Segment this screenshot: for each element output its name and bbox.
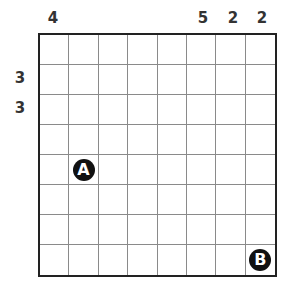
grid-cell-r4-c1[interactable] — [40, 125, 69, 155]
grid-cell-r2-c6[interactable] — [187, 65, 216, 95]
grid-cell-r8-c7[interactable] — [216, 245, 245, 275]
grid-cell-r8-c2[interactable] — [69, 245, 98, 275]
grid-cell-r4-c6[interactable] — [187, 125, 216, 155]
column-clue-7: 2 — [218, 9, 248, 27]
column-clue-8: 2 — [247, 9, 277, 27]
grid-cell-r7-c7[interactable] — [216, 215, 245, 245]
grid-cell-r6-c2[interactable] — [69, 185, 98, 215]
grid-cell-r7-c8[interactable] — [246, 215, 275, 245]
grid-cell-r4-c2[interactable] — [69, 125, 98, 155]
grid-cell-r1-c3[interactable] — [99, 35, 128, 65]
grid-cell-r6-c8[interactable] — [246, 185, 275, 215]
grid-cell-r1-c1[interactable] — [40, 35, 69, 65]
grid-cell-r2-c8[interactable] — [246, 65, 275, 95]
grid-cell-r6-c6[interactable] — [187, 185, 216, 215]
grid-cell-r3-c3[interactable] — [99, 95, 128, 125]
grid-cell-r3-c8[interactable] — [246, 95, 275, 125]
grid-cell-r5-c8[interactable] — [246, 155, 275, 185]
grid-cell-r2-c5[interactable] — [158, 65, 187, 95]
grid-cell-r4-c7[interactable] — [216, 125, 245, 155]
grid-cell-r1-c5[interactable] — [158, 35, 187, 65]
marker-b: B — [249, 249, 271, 271]
grid-cell-r7-c3[interactable] — [99, 215, 128, 245]
row-clue-3: 3 — [12, 99, 28, 117]
grid-cell-r3-c5[interactable] — [158, 95, 187, 125]
grid-cell-r3-c1[interactable] — [40, 95, 69, 125]
grid-cell-r6-c1[interactable] — [40, 185, 69, 215]
grid-cell-r3-c6[interactable] — [187, 95, 216, 125]
grid-cell-r6-c5[interactable] — [158, 185, 187, 215]
grid-cell-r7-c5[interactable] — [158, 215, 187, 245]
grid-cell-r7-c1[interactable] — [40, 215, 69, 245]
grid-cell-r8-c4[interactable] — [128, 245, 157, 275]
grid-cell-r4-c8[interactable] — [246, 125, 275, 155]
grid-cell-r2-c7[interactable] — [216, 65, 245, 95]
grid-cell-r6-c3[interactable] — [99, 185, 128, 215]
grid-cell-r7-c4[interactable] — [128, 215, 157, 245]
grid-cell-r8-c5[interactable] — [158, 245, 187, 275]
grid-cell-r5-c3[interactable] — [99, 155, 128, 185]
grid-cell-r4-c3[interactable] — [99, 125, 128, 155]
grid-cell-r5-c2[interactable]: A — [69, 155, 98, 185]
grid-cell-r8-c8[interactable]: B — [246, 245, 275, 275]
row-clue-2: 3 — [12, 69, 28, 87]
grid-cell-r5-c4[interactable] — [128, 155, 157, 185]
grid-cell-r5-c6[interactable] — [187, 155, 216, 185]
column-clue-1: 4 — [38, 9, 68, 27]
grid-cell-r1-c4[interactable] — [128, 35, 157, 65]
grid-cell-r2-c1[interactable] — [40, 65, 69, 95]
grid-cell-r4-c4[interactable] — [128, 125, 157, 155]
grid-cell-r1-c6[interactable] — [187, 35, 216, 65]
marker-a: A — [73, 159, 95, 181]
grid-cell-r5-c1[interactable] — [40, 155, 69, 185]
grid-cell-r3-c4[interactable] — [128, 95, 157, 125]
grid-cell-r2-c4[interactable] — [128, 65, 157, 95]
grid-cell-r6-c4[interactable] — [128, 185, 157, 215]
grid-cell-r5-c5[interactable] — [158, 155, 187, 185]
grid-cell-r6-c7[interactable] — [216, 185, 245, 215]
grid-cell-r4-c5[interactable] — [158, 125, 187, 155]
puzzle-grid: AB — [38, 33, 277, 277]
grid-cell-r8-c6[interactable] — [187, 245, 216, 275]
grid-cell-r3-c2[interactable] — [69, 95, 98, 125]
grid-cell-r3-c7[interactable] — [216, 95, 245, 125]
column-clue-6: 5 — [188, 9, 218, 27]
grid-cell-r1-c7[interactable] — [216, 35, 245, 65]
grid-cell-r1-c2[interactable] — [69, 35, 98, 65]
grid-cell-r8-c1[interactable] — [40, 245, 69, 275]
grid-cell-r2-c2[interactable] — [69, 65, 98, 95]
grid-cell-r7-c6[interactable] — [187, 215, 216, 245]
grid-cell-r5-c7[interactable] — [216, 155, 245, 185]
grid-cell-r7-c2[interactable] — [69, 215, 98, 245]
puzzle-board: 4 5 2 2 3 3 AB — [0, 0, 297, 293]
grid-cell-r2-c3[interactable] — [99, 65, 128, 95]
grid-cell-r8-c3[interactable] — [99, 245, 128, 275]
grid-cell-r1-c8[interactable] — [246, 35, 275, 65]
